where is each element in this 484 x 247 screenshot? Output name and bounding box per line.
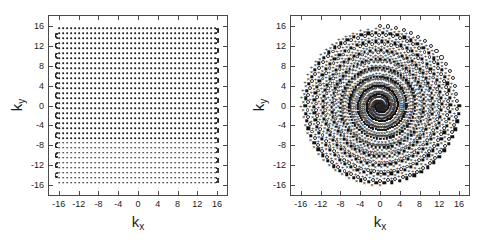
y-tick xyxy=(291,86,295,87)
y-tick-label: 16 xyxy=(276,21,286,31)
x-tick xyxy=(340,191,341,195)
y-tick xyxy=(49,86,53,87)
x-tick-label: 8 xyxy=(417,199,422,209)
x-tick-label: 0 xyxy=(135,199,140,209)
y-tick xyxy=(49,165,53,166)
spiral-panel: ++++++++++++++++++++++++++++++++++++++++… xyxy=(242,0,484,247)
y-tick-label: 4 xyxy=(39,81,44,91)
y-tick-label: 4 xyxy=(281,81,286,91)
y-tick xyxy=(291,145,295,146)
y-tick-right xyxy=(223,86,227,87)
x-tick-label: 0 xyxy=(377,199,382,209)
x-tick-top xyxy=(138,16,139,20)
x-tick-label: -12 xyxy=(314,199,327,209)
y-tick-right xyxy=(465,26,469,27)
x-tick-label: 8 xyxy=(175,199,180,209)
x-tick-label: -4 xyxy=(356,199,364,209)
y-tick-label: 0 xyxy=(281,101,286,111)
x-tick-top xyxy=(400,16,401,20)
x-tick-top xyxy=(360,16,361,20)
y-tick-label: -16 xyxy=(273,180,286,190)
x-tick-label: -16 xyxy=(294,199,307,209)
epi-panel: -16-12-8-404812161612840-4-8-12-16 kx ky xyxy=(0,0,242,247)
y-tick-right xyxy=(223,185,227,186)
y-tick-right xyxy=(465,46,469,47)
y-tick-right xyxy=(465,86,469,87)
x-tick xyxy=(360,191,361,195)
y-tick-right xyxy=(465,125,469,126)
x-tick-top xyxy=(158,16,159,20)
y-tick xyxy=(291,106,295,107)
x-tick-label: -12 xyxy=(72,199,85,209)
x-tick xyxy=(217,191,218,195)
y-tick xyxy=(291,185,295,186)
y-tick xyxy=(49,185,53,186)
y-tick xyxy=(49,106,53,107)
y-tick-label: 16 xyxy=(34,21,44,31)
x-tick-top xyxy=(178,16,179,20)
spiral-y-axis-title: ky xyxy=(250,99,267,112)
y-tick-right xyxy=(223,66,227,67)
y-tick-right xyxy=(223,145,227,146)
y-tick-right xyxy=(223,125,227,126)
y-tick-label: -16 xyxy=(31,180,44,190)
y-tick-right xyxy=(465,185,469,186)
y-tick-right xyxy=(223,26,227,27)
y-tick xyxy=(49,26,53,27)
y-tick xyxy=(291,46,295,47)
x-tick xyxy=(158,191,159,195)
x-tick-top xyxy=(301,16,302,20)
y-tick xyxy=(291,125,295,126)
x-tick-label: -4 xyxy=(114,199,122,209)
y-tick-label: 8 xyxy=(281,61,286,71)
x-tick xyxy=(59,191,60,195)
x-tick xyxy=(400,191,401,195)
x-tick xyxy=(439,191,440,195)
y-tick xyxy=(49,66,53,67)
x-tick-top xyxy=(98,16,99,20)
spiral-plot-surface: ++++++++++++++++++++++++++++++++++++++++… xyxy=(291,16,469,195)
x-tick xyxy=(459,191,460,195)
y-tick-label: -4 xyxy=(36,120,44,130)
y-tick-label: 0 xyxy=(39,101,44,111)
y-tick xyxy=(49,145,53,146)
x-tick xyxy=(138,191,139,195)
x-tick xyxy=(98,191,99,195)
x-tick-label: 4 xyxy=(155,199,160,209)
epi-y-axis-title: ky xyxy=(8,99,25,112)
y-tick-label: -8 xyxy=(36,140,44,150)
x-tick xyxy=(197,191,198,195)
x-tick-top xyxy=(217,16,218,20)
x-tick-top xyxy=(439,16,440,20)
y-tick xyxy=(49,125,53,126)
spiral-x-axis-title: kx xyxy=(374,213,387,230)
x-tick-label: 12 xyxy=(192,199,202,209)
y-tick xyxy=(49,46,53,47)
x-tick-label: 4 xyxy=(397,199,402,209)
x-tick-label: -16 xyxy=(52,199,65,209)
x-tick-top xyxy=(340,16,341,20)
two-panel-kspace-figure: -16-12-8-404812161612840-4-8-12-16 kx ky… xyxy=(0,0,484,247)
y-tick xyxy=(291,165,295,166)
x-tick xyxy=(301,191,302,195)
x-tick xyxy=(178,191,179,195)
x-tick-label: -8 xyxy=(336,199,344,209)
y-tick xyxy=(291,26,295,27)
y-tick-label: 12 xyxy=(276,41,286,51)
y-tick-right xyxy=(465,165,469,166)
x-tick-top xyxy=(59,16,60,20)
y-tick-right xyxy=(223,165,227,166)
x-tick-top xyxy=(459,16,460,20)
x-tick-top xyxy=(321,16,322,20)
y-tick-label: -8 xyxy=(278,140,286,150)
epi-x-axis-title: kx xyxy=(132,213,145,230)
y-tick-label: -12 xyxy=(31,160,44,170)
x-tick-label: 16 xyxy=(212,199,222,209)
y-tick-right xyxy=(465,106,469,107)
x-tick-top xyxy=(197,16,198,20)
x-tick-top xyxy=(420,16,421,20)
y-tick-right xyxy=(223,46,227,47)
x-tick-label: 12 xyxy=(434,199,444,209)
y-tick-label: 12 xyxy=(34,41,44,51)
y-tick-label: 8 xyxy=(39,61,44,71)
